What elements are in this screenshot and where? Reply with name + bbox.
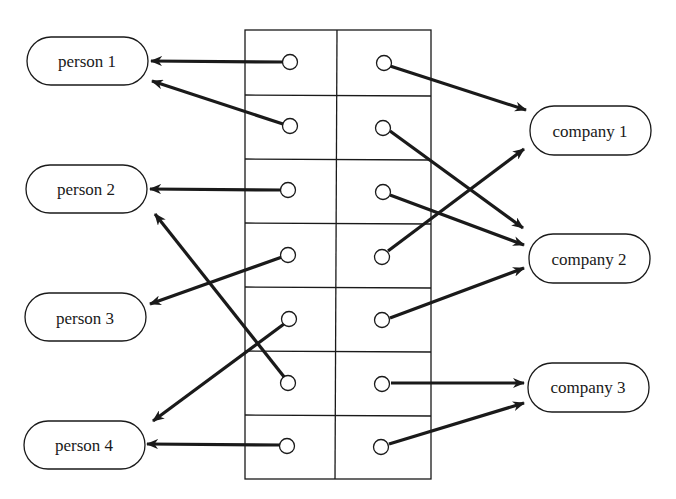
company-node-1: company 1 [530,106,651,155]
port-left-row4 [281,248,296,263]
arrow-row7-to-person4 [147,444,281,445]
port-right-row7 [374,440,389,455]
arrow-row3-to-person2 [150,189,282,190]
company-label-2: company 2 [551,250,626,269]
person-node-4: person 4 [24,421,145,469]
person-label-2: person 2 [57,180,115,199]
person-label-3: person 3 [56,309,114,328]
link-table [245,30,431,479]
port-left-row2 [283,119,298,134]
port-left-row6 [281,376,296,391]
port-left-row3 [281,183,296,198]
person-arrows [147,61,285,445]
relationship-diagram: person 1 person 2 person 3 person 4 comp… [0,0,676,499]
arrow-row7-to-company3 [389,403,524,444]
port-left-row1 [283,55,298,70]
arrow-row3-to-company2 [390,195,524,245]
port-right-row1 [377,56,392,71]
person-node-2: person 2 [26,165,147,213]
company-node-2: company 2 [529,234,650,283]
arrow-row5-to-person4 [153,324,284,421]
person-label-1: person 1 [58,52,116,71]
port-right-row5 [375,313,390,328]
arrow-row1-to-company1 [390,66,526,110]
arrow-row2-to-person1 [152,81,283,124]
port-right-row2 [376,121,391,136]
arrow-row1-to-person1 [151,61,283,62]
port-left-row5 [282,312,297,327]
company-node-3: company 3 [528,363,649,412]
arrow-row2-to-company2 [390,131,523,228]
person-label-4: person 4 [55,436,114,455]
person-node-1: person 1 [27,37,148,85]
port-right-row6 [375,377,390,392]
person-node-3: person 3 [25,293,146,341]
company-arrows [388,66,526,444]
port-right-row4 [375,250,390,265]
arrow-row4-to-person3 [150,257,282,304]
company-label-1: company 1 [552,122,627,141]
arrow-row5-to-company2 [390,268,524,318]
company-label-3: company 3 [550,378,625,397]
port-right-row3 [376,185,391,200]
port-left-row7 [280,439,295,454]
